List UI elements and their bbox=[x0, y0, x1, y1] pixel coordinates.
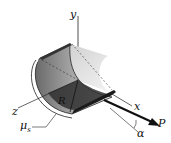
friction-subscript: s bbox=[27, 126, 31, 134]
angle-label: α bbox=[137, 128, 144, 139]
alpha-arc bbox=[134, 120, 136, 128]
x-axis-label: x bbox=[134, 101, 140, 112]
friction-label: μs bbox=[20, 120, 31, 134]
radius-label: R bbox=[58, 96, 66, 106]
z-axis-label: z bbox=[12, 106, 18, 117]
y-axis-label: y bbox=[70, 9, 76, 20]
force-label: P bbox=[158, 118, 165, 129]
friction-leader bbox=[32, 114, 56, 127]
